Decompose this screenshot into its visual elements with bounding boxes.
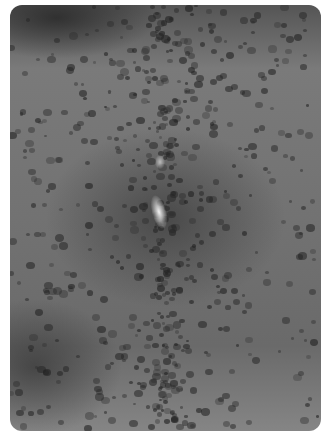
papule (35, 309, 43, 316)
papule (46, 405, 51, 409)
papule (206, 353, 212, 358)
papule (137, 164, 140, 167)
papule (107, 136, 111, 140)
papule (46, 189, 51, 193)
papule (36, 58, 40, 61)
papule (238, 45, 243, 49)
papule (285, 49, 292, 55)
papule (225, 305, 230, 310)
papule (148, 127, 152, 130)
papule (186, 371, 194, 378)
papule (157, 258, 160, 261)
papule (198, 321, 206, 328)
papule (85, 412, 94, 419)
papule (222, 275, 230, 281)
papule (114, 137, 119, 141)
papule (274, 22, 281, 28)
papule (141, 236, 147, 241)
papule (55, 339, 59, 342)
papule (156, 404, 163, 410)
papule (188, 89, 195, 95)
papule (144, 368, 150, 373)
papule (28, 127, 35, 133)
papule (180, 406, 183, 409)
papule (144, 344, 151, 350)
papule (122, 359, 126, 362)
papule (104, 52, 108, 55)
papule (107, 21, 114, 27)
papule (261, 88, 268, 94)
papule (164, 408, 171, 414)
papule (29, 148, 35, 153)
papule (97, 326, 106, 334)
papule (243, 42, 247, 45)
papule (220, 288, 227, 294)
papule (77, 121, 84, 127)
papule (209, 130, 218, 138)
papule (85, 222, 93, 229)
papule (173, 344, 181, 351)
papule (310, 199, 315, 203)
papule (136, 148, 141, 152)
papule (175, 107, 183, 114)
papule (293, 225, 300, 231)
papule (157, 111, 164, 117)
papule (122, 394, 128, 399)
papule (179, 57, 187, 64)
papule (150, 68, 156, 73)
papule (185, 82, 188, 85)
papule (129, 420, 138, 427)
papule (172, 41, 178, 46)
papule (110, 255, 115, 259)
papule (154, 292, 158, 296)
papule (166, 105, 174, 112)
papule (162, 293, 166, 297)
papule (15, 389, 23, 396)
papule (246, 267, 252, 272)
papule (130, 206, 138, 213)
papule (183, 344, 190, 350)
papule (147, 81, 150, 84)
papule (222, 224, 229, 230)
papule (37, 409, 44, 415)
papule (282, 58, 289, 64)
papule (28, 411, 34, 416)
papule (70, 272, 77, 278)
papule (174, 30, 181, 36)
papule (105, 107, 110, 111)
papule (193, 119, 200, 125)
papule (133, 134, 137, 138)
papule (94, 415, 97, 418)
papule (214, 299, 222, 305)
papule (16, 410, 24, 417)
papule (190, 246, 196, 251)
papule (10, 45, 15, 52)
papule (157, 285, 165, 292)
papule (230, 424, 236, 429)
papule (208, 23, 212, 26)
papule (69, 32, 78, 40)
papule (169, 229, 177, 235)
papule (26, 262, 34, 269)
papule (156, 173, 165, 180)
papule (238, 147, 242, 151)
papule (259, 125, 265, 130)
papule (110, 362, 113, 365)
papule (299, 329, 304, 333)
papule (186, 264, 189, 267)
specular-highlight-upper (155, 155, 165, 169)
papule (56, 157, 62, 162)
papule (220, 58, 224, 62)
papule (166, 50, 169, 53)
papule (63, 366, 70, 372)
papule (280, 5, 289, 11)
papule (286, 36, 295, 43)
papule (175, 330, 180, 334)
papule (172, 292, 176, 295)
papule (129, 177, 136, 183)
papule (93, 61, 96, 64)
papule (197, 185, 203, 190)
papule (137, 329, 141, 332)
papule (47, 56, 56, 63)
papule (42, 203, 47, 207)
